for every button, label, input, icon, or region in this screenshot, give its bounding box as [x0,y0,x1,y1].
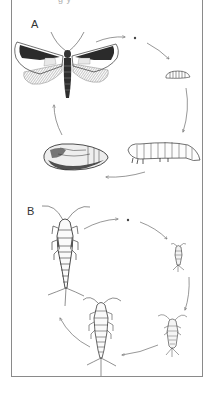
large-nymph-illustration [83,298,121,376]
arrow-small-to-medium-nymph [185,277,189,310]
panel-b [42,206,189,376]
arrow-medium-to-large-nymph [122,345,158,355]
small-nymph-illustration [171,243,186,272]
arrow-adult-to-egg [96,37,125,42]
arrow-larva-to-caterpillar [183,88,187,132]
pupa-illustration [44,144,108,170]
panel-a [15,32,200,177]
medium-nymph-illustration [158,315,187,357]
arrow-pupa-to-adult [54,105,62,135]
adult-moth-illustration [15,32,119,98]
life-cycle-illustration [0,0,213,393]
arrow-caterpillar-to-pupa [106,172,145,177]
egg-illustration [127,219,129,221]
arrow-egg-to-nymph [140,222,167,239]
young-larva-illustration [166,71,190,78]
arrow-egg-to-larva [147,43,169,59]
caterpillar-illustration [128,142,200,164]
egg-illustration [134,37,136,39]
arrow-large-nymph-to-adult [60,318,90,347]
arrow-adult-to-egg [84,219,118,229]
adult-silverfish-illustration [42,206,90,306]
